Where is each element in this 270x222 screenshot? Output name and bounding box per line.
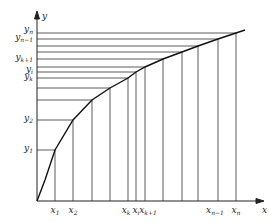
y-tick-labels: ynyn−1yk+1yiyky2y1 xyxy=(14,24,33,154)
curve xyxy=(37,30,245,201)
tick-label: xn xyxy=(232,205,241,216)
grid-lines xyxy=(37,33,236,201)
x-tick-labels: x1x2xkxixk+1xn−1xn xyxy=(51,205,241,216)
tick-label: x1 xyxy=(51,205,60,216)
tick-label: xk xyxy=(122,205,131,216)
y-axis-arrow-icon xyxy=(35,11,40,19)
tick-label: x2 xyxy=(69,205,78,216)
axes xyxy=(35,11,265,204)
y-axis-label: y xyxy=(41,11,48,21)
tick-label: yn xyxy=(23,24,33,35)
x-axis-arrow-icon xyxy=(256,199,264,204)
tick-label: yk+1 xyxy=(14,52,33,63)
tick-label: xk+1 xyxy=(139,205,157,216)
tick-label: y2 xyxy=(23,113,33,124)
x-axis-label: x xyxy=(262,205,267,215)
tick-label: xn−1 xyxy=(206,205,224,216)
tick-label: y1 xyxy=(23,143,33,154)
area-subdivision-diagram: y x ynyn−1yk+1yiyky2y1 x1x2xkxixk+1xn−1x… xyxy=(0,0,270,222)
